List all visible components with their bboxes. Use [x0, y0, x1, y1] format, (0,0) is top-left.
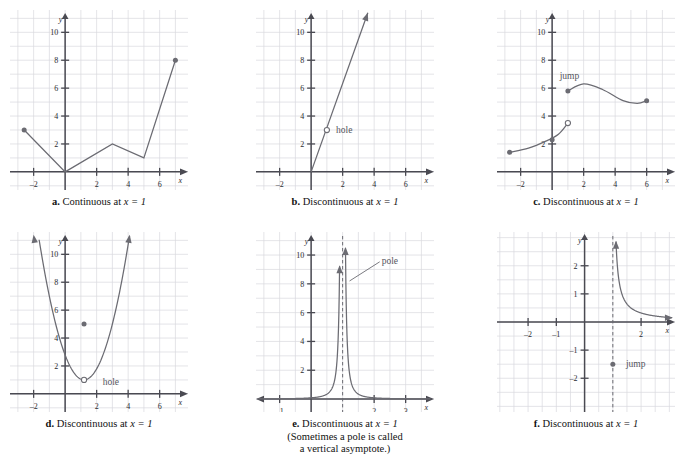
y-tick-label: 10 — [296, 28, 304, 37]
x-tick-label: 2 — [639, 330, 643, 339]
x-tick-label: 6 — [158, 402, 162, 411]
y-tick-label: 4 — [541, 112, 545, 121]
caption-letter-f: f. — [534, 418, 543, 429]
open-point — [324, 127, 329, 132]
y-tick-label: 1 — [574, 290, 578, 299]
y-tick-label: –1 — [569, 346, 578, 355]
x-tick-label: 6 — [404, 180, 408, 189]
y-tick-label: 8 — [54, 278, 58, 287]
curves — [32, 235, 132, 380]
y-tick-label: 4 — [54, 334, 58, 343]
plot-f: xy–2–1221–1–2jump — [497, 232, 675, 412]
closed-point — [550, 137, 555, 142]
y-tick-label: 4 — [54, 112, 58, 121]
y-tick-label: 8 — [300, 280, 304, 289]
y-tick-label: 4 — [300, 337, 304, 346]
caption-math-b: x = 1 — [376, 196, 398, 207]
x-axis-label-b: x — [423, 176, 428, 185]
y-tick-label: 4 — [300, 112, 304, 121]
caption-f: f. Discontinuous at x = 1 — [497, 418, 675, 431]
y-axis-label-d: y — [58, 237, 63, 246]
panel-f: xy–2–1221–1–2jumpf. Discontinuous at x =… — [497, 232, 675, 412]
plot-e: xy–123246810pole — [256, 232, 434, 412]
plot-b: xy–2246246810hole — [256, 10, 434, 190]
y-tick-label: 6 — [54, 84, 58, 93]
x-axis-label-d: x — [177, 398, 182, 407]
tick-marks: –123246810 — [275, 251, 408, 412]
y-axis-label-c: y — [545, 15, 550, 24]
curves — [311, 13, 368, 172]
grid-lines — [256, 10, 434, 190]
axes — [256, 13, 434, 190]
y-axis-label-b: y — [304, 15, 309, 24]
plot-c: xy–2246246810jump — [497, 10, 675, 190]
tick-marks: –2246246810 — [275, 28, 408, 189]
caption-math-c: x = 1 — [617, 196, 639, 207]
tick-marks: –2246246810 — [29, 250, 162, 411]
caption-text-a: Continuous at — [62, 196, 123, 207]
tick-marks: –2246246810 — [29, 28, 162, 189]
open-point — [81, 377, 86, 382]
caption-extra2-e: a vertical asymptote.) — [256, 443, 434, 456]
caption-letter-b: b. — [292, 196, 303, 207]
axes — [497, 234, 675, 412]
caption-a: a. Continuous at x = 1 — [10, 196, 188, 209]
caption-letter-c: c. — [533, 196, 543, 207]
caption-text-c: Discontinuous at — [543, 196, 617, 207]
curves — [510, 84, 647, 152]
closed-point — [82, 322, 87, 327]
tick-marks: –2246246810 — [516, 28, 649, 189]
y-tick-label: 6 — [541, 84, 545, 93]
annotation-hole: hole — [103, 377, 119, 387]
y-tick-label: 2 — [54, 362, 58, 371]
y-axis-label-f: y — [577, 236, 582, 245]
closed-point — [610, 362, 615, 367]
x-tick-label: 2 — [95, 402, 99, 411]
caption-math-d: x = 1 — [130, 418, 152, 429]
y-tick-label: 10 — [537, 28, 545, 37]
y-tick-label: 6 — [54, 306, 58, 315]
caption-text-f: Discontinuous at — [543, 418, 617, 429]
x-axis-label-c: x — [664, 176, 669, 185]
plot-a: xy–2246246810 — [10, 10, 188, 190]
caption-c: c. Discontinuous at x = 1 — [497, 196, 675, 209]
caption-letter-a: a. — [52, 196, 63, 207]
x-tick-label: 2 — [341, 180, 345, 189]
caption-text-b: Discontinuous at — [303, 196, 377, 207]
axes — [10, 235, 188, 412]
annotation-jump: jump — [559, 71, 580, 81]
plot-d: xy–2246246810hole — [10, 232, 188, 412]
y-tick-label: 10 — [50, 250, 58, 259]
x-tick-label: 3 — [404, 407, 408, 412]
panel-c: xy–2246246810jumpc. Discontinuous at x =… — [497, 10, 675, 190]
x-tick-label: 2 — [372, 407, 376, 412]
x-tick-label: 4 — [126, 402, 130, 411]
x-tick-label: 6 — [645, 180, 649, 189]
caption-e: e. Discontinuous at x = 1(Sometimes a po… — [256, 418, 434, 456]
y-tick-label: 8 — [54, 56, 58, 65]
y-tick-label: 6 — [300, 84, 304, 93]
y-tick-label: 10 — [50, 28, 58, 37]
x-tick-label: –2 — [29, 180, 38, 189]
curves — [613, 241, 673, 321]
y-tick-label: 6 — [300, 309, 304, 318]
closed-point — [565, 88, 570, 93]
x-tick-label: –1 — [551, 330, 560, 339]
y-axis-label-e: y — [304, 237, 309, 246]
axes — [10, 13, 188, 190]
x-tick-label: 4 — [613, 180, 617, 189]
panel-d: xy–2246246810holed. Discontinuous at x =… — [10, 232, 188, 412]
y-tick-label: 2 — [300, 140, 304, 149]
caption-letter-d: d. — [46, 418, 57, 429]
x-axis-label-f: x — [664, 326, 669, 335]
x-tick-label: –2 — [29, 402, 38, 411]
x-tick-label: 6 — [158, 180, 162, 189]
grid-lines — [10, 232, 188, 412]
caption-math-e: x = 1 — [376, 418, 398, 429]
annotation-jump: jump — [625, 359, 646, 369]
annotation-pole: pole — [382, 256, 398, 266]
panel-b: xy–2246246810holeb. Discontinuous at x =… — [256, 10, 434, 190]
caption-b: b. Discontinuous at x = 1 — [256, 196, 434, 209]
y-tick-label: –2 — [569, 374, 578, 383]
